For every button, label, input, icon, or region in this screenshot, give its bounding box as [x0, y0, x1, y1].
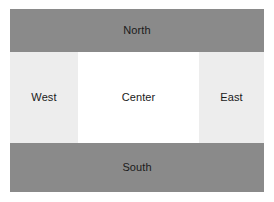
- region-south[interactable]: South: [10, 143, 264, 192]
- border-layout-diagram: North West Center East South: [10, 9, 264, 192]
- region-center-label: Center: [122, 92, 156, 103]
- region-east-label: East: [220, 92, 242, 103]
- region-south-label: South: [122, 162, 151, 173]
- region-center[interactable]: Center: [78, 52, 199, 143]
- region-north[interactable]: North: [10, 9, 264, 52]
- region-west[interactable]: West: [10, 52, 78, 143]
- region-north-label: North: [123, 25, 150, 36]
- middle-row: West Center East: [10, 52, 264, 143]
- region-west-label: West: [31, 92, 56, 103]
- region-east[interactable]: East: [199, 52, 264, 143]
